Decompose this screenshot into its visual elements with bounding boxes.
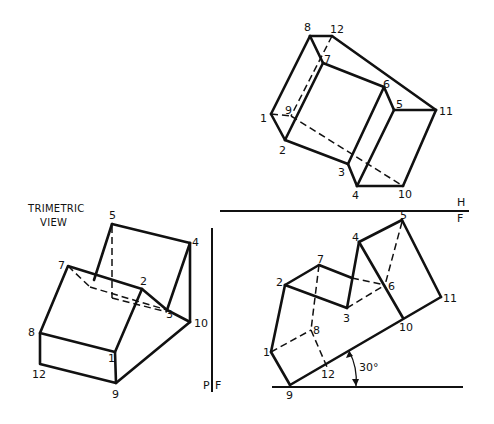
front-hidden-1-8: [271, 330, 311, 352]
top-label-8: 8: [304, 21, 311, 34]
front-edge-1-9: [271, 352, 290, 385]
front-label-10: 10: [399, 321, 413, 334]
trimetric-title-line1: TRIMETRIC: [27, 203, 85, 214]
h-label: H: [457, 196, 465, 209]
top-edge-6-3: [348, 87, 384, 164]
top-label-1: 1: [260, 112, 267, 125]
trimetric-hidden-base-a: [90, 287, 167, 310]
front-label-3: 3: [343, 312, 350, 325]
top-label-2: 2: [279, 144, 286, 157]
front-label-4: 4: [352, 231, 359, 244]
top-label-7: 7: [324, 53, 331, 66]
top-label-10: 10: [398, 188, 412, 201]
top-label-6: 6: [383, 78, 390, 91]
trimetric-label-1: 1: [108, 352, 115, 365]
front-label-5: 5: [400, 209, 407, 222]
trimetric-label-12: 12: [32, 368, 46, 381]
trimetric-label-2: 2: [140, 275, 147, 288]
trimetric-title-line2: VIEW: [40, 217, 67, 228]
top-edge-3-4: [348, 164, 357, 186]
trimetric-label-10: 10: [194, 317, 208, 330]
top-label-11: 11: [439, 105, 453, 118]
f-top-label: F: [457, 212, 463, 225]
top-edge-2-3: [285, 140, 348, 164]
front-edge-4-10: [359, 242, 403, 318]
trimetric-edge-5-4: [112, 224, 190, 243]
trimetric-hidden-base-b: [112, 298, 167, 312]
front-label-6: 6: [388, 280, 395, 293]
front-label-11: 11: [443, 292, 457, 305]
trimetric-label-9: 9: [112, 388, 119, 401]
top-view: 8 12 7 6 5 11 1 9 2 3 4 10: [260, 21, 453, 202]
front-edge-2-7: [285, 265, 319, 285]
trimetric-edge-5-down: [94, 224, 112, 280]
front-hidden-3-6: [347, 285, 385, 308]
trimetric-label-8: 8: [28, 326, 35, 339]
f-side-label: F: [215, 379, 221, 392]
top-hidden-12-9: [291, 36, 332, 116]
front-label-2: 2: [276, 276, 283, 289]
p-label: P: [203, 379, 210, 392]
trimetric-edge-9-10: [116, 322, 190, 383]
profile-front-reference: P F: [203, 228, 221, 392]
trimetric-edge-4-3: [167, 243, 190, 310]
top-edge-11-10: [403, 110, 436, 186]
front-label-8: 8: [313, 324, 320, 337]
trimetric-label-7: 7: [58, 259, 65, 272]
front-label-9: 9: [286, 389, 293, 402]
angle-arrowhead-bottom: [352, 379, 359, 386]
trimetric-view: TRIMETRIC VIEW 5 4 7 2 3 10 8 1 12 9: [27, 203, 208, 401]
top-label-4: 4: [352, 189, 359, 202]
front-label-7: 7: [317, 253, 324, 266]
horizontal-front-reference: H F: [220, 196, 469, 225]
front-edge-5-4: [359, 220, 402, 242]
top-label-3: 3: [338, 166, 345, 179]
trimetric-label-5: 5: [109, 209, 116, 222]
front-edge-2-1: [271, 285, 285, 352]
top-edge-1-2: [271, 114, 285, 140]
front-edge-11-5: [402, 220, 441, 297]
trimetric-top-face: [40, 266, 142, 352]
front-view: 30° 5 4 7 2 6 11 3 10 8 1 12 9: [263, 209, 463, 402]
angle-label: 30°: [359, 361, 379, 374]
top-label-5: 5: [396, 98, 403, 111]
trimetric-label-3: 3: [166, 308, 173, 321]
front-label-1: 1: [263, 346, 270, 359]
front-edge-7-right: [319, 265, 352, 278]
front-label-12: 12: [321, 368, 335, 381]
top-edge-5-4: [357, 110, 394, 186]
trimetric-front-face: [40, 333, 116, 383]
trimetric-label-4: 4: [192, 236, 199, 249]
front-edge-4-3: [347, 242, 359, 308]
front-hidden-5-6: [385, 222, 402, 285]
top-label-12: 12: [330, 23, 344, 36]
top-label-9: 9: [285, 104, 292, 117]
orthographic-drawing: TRIMETRIC VIEW 5 4 7 2 3 10 8 1 12 9 P F: [0, 0, 494, 424]
